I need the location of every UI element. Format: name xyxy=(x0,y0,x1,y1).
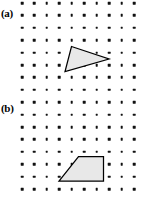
lattice-dot xyxy=(133,2,136,5)
lattice-dot xyxy=(21,163,24,166)
lattice-dot xyxy=(95,126,98,129)
lattice-dot xyxy=(71,14,74,17)
lattice-dot xyxy=(58,126,61,129)
lattice-dot xyxy=(21,27,24,30)
lattice-dot xyxy=(83,51,86,54)
lattice-dot xyxy=(71,113,74,116)
lattice-dot xyxy=(120,2,123,5)
lattice-dot xyxy=(108,89,111,92)
lattice-dot xyxy=(33,89,36,92)
lattice-dot xyxy=(21,64,24,67)
lattice-dot xyxy=(120,113,123,116)
lattice-dot xyxy=(83,175,86,178)
lattice-dot xyxy=(33,151,36,154)
lattice-dot xyxy=(133,101,136,104)
lattice-dot xyxy=(46,2,49,5)
lattice-dot xyxy=(58,188,61,191)
lattice-dot xyxy=(95,151,98,154)
lattice-dot xyxy=(133,113,136,116)
lattice-dot xyxy=(58,76,61,79)
lattice-dot xyxy=(133,76,136,79)
lattice-dot xyxy=(33,175,36,178)
lattice-dot xyxy=(133,188,136,191)
lattice-dot xyxy=(46,113,49,116)
lattice-dot xyxy=(108,101,111,104)
lattice-dot xyxy=(71,2,74,5)
lattice-dot xyxy=(95,188,98,191)
lattice-dot xyxy=(46,64,49,67)
lattice-dot xyxy=(21,101,24,104)
lattice-dot xyxy=(108,2,111,5)
dot-lattice xyxy=(0,0,142,197)
lattice-dot xyxy=(133,138,136,141)
lattice-dot xyxy=(108,76,111,79)
lattice-dot xyxy=(120,101,123,104)
lattice-dot xyxy=(83,2,86,5)
panel-label-b: (b) xyxy=(1,103,14,114)
lattice-dot xyxy=(33,64,36,67)
lattice-dot xyxy=(58,151,61,154)
lattice-dot xyxy=(21,89,24,92)
lattice-dot xyxy=(33,138,36,141)
lattice-dot xyxy=(108,163,111,166)
lattice-dot xyxy=(71,51,74,54)
lattice-dot xyxy=(83,64,86,67)
lattice-dot xyxy=(83,188,86,191)
lattice-dot xyxy=(46,76,49,79)
lattice-dot xyxy=(120,39,123,42)
lattice-dot xyxy=(95,64,98,67)
lattice-dot xyxy=(83,113,86,116)
lattice-dot xyxy=(46,89,49,92)
lattice-dot xyxy=(58,64,61,67)
lattice-dot xyxy=(83,27,86,30)
lattice-dot xyxy=(21,188,24,191)
lattice-dot xyxy=(95,51,98,54)
lattice-dot xyxy=(33,188,36,191)
lattice-dot xyxy=(133,14,136,17)
lattice-dot xyxy=(95,163,98,166)
lattice-dot xyxy=(46,14,49,17)
lattice-dot xyxy=(46,101,49,104)
lattice-dot xyxy=(58,89,61,92)
lattice-dot xyxy=(83,14,86,17)
lattice-dot xyxy=(58,2,61,5)
lattice-dot xyxy=(133,163,136,166)
lattice-dot xyxy=(108,27,111,30)
lattice-dot xyxy=(33,101,36,104)
lattice-dot xyxy=(95,14,98,17)
lattice-dot xyxy=(21,175,24,178)
lattice-dot xyxy=(120,27,123,30)
lattice-dot xyxy=(95,138,98,141)
lattice-dot xyxy=(46,138,49,141)
lattice-dot xyxy=(133,51,136,54)
lattice-dot xyxy=(33,14,36,17)
lattice-dot xyxy=(95,113,98,116)
lattice-dot xyxy=(58,175,61,178)
lattice-dot xyxy=(21,51,24,54)
lattice-dot xyxy=(120,14,123,17)
lattice-dot xyxy=(120,51,123,54)
lattice-dot xyxy=(46,126,49,129)
lattice-dot xyxy=(33,39,36,42)
lattice-dot xyxy=(108,151,111,154)
lattice-dot xyxy=(21,76,24,79)
lattice-dot xyxy=(108,138,111,141)
lattice-dot xyxy=(46,51,49,54)
lattice-dot xyxy=(71,151,74,154)
lattice-dot xyxy=(33,113,36,116)
lattice-dot xyxy=(108,175,111,178)
lattice-dot xyxy=(95,27,98,30)
lattice-dot xyxy=(58,51,61,54)
lattice-dot xyxy=(108,39,111,42)
panel-label-a: (a) xyxy=(1,8,13,19)
lattice-dot xyxy=(71,27,74,30)
lattice-dot xyxy=(58,27,61,30)
lattice-dot xyxy=(33,51,36,54)
lattice-dot xyxy=(58,113,61,116)
lattice-dot xyxy=(83,76,86,79)
lattice-dot xyxy=(71,101,74,104)
lattice-dot xyxy=(71,138,74,141)
lattice-dot xyxy=(108,126,111,129)
lattice-dot xyxy=(71,76,74,79)
lattice-dot xyxy=(108,188,111,191)
